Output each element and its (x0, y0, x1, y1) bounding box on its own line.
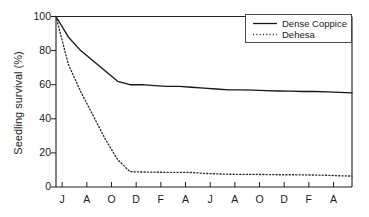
chart-figure: Seedling survival (%) 100 80 60 40 20 0 … (0, 0, 369, 217)
x-axis-ticks (62, 182, 333, 187)
x-tick-label-7: A (231, 193, 238, 205)
x-tick-label-4: F (158, 193, 164, 205)
x-tick-label-11: A (330, 193, 337, 205)
y-tick-label-80: 80 (39, 44, 51, 56)
x-tick-label-2: O (107, 193, 115, 205)
y-tick-label-40: 40 (39, 112, 51, 124)
y-tick-label-0: 0 (45, 180, 51, 192)
legend-label-dehesa: Dehesa (282, 29, 315, 40)
x-tick-label-1: A (83, 193, 90, 205)
seedling-survival-line-chart: Seedling survival (%) 100 80 60 40 20 0 … (0, 0, 369, 217)
y-axis-title: Seedling survival (%) (12, 51, 24, 154)
x-tick-label-3: D (132, 193, 140, 205)
y-axis-tick-labels: 100 80 60 40 20 0 (33, 10, 51, 192)
y-tick-label-60: 60 (39, 78, 51, 90)
x-tick-label-9: D (280, 193, 288, 205)
y-axis-ticks (51, 17, 56, 188)
x-tick-label-6: J (208, 193, 213, 205)
y-tick-label-20: 20 (39, 146, 51, 158)
x-axis-tick-labels: JAODFAJAODFA (60, 193, 337, 205)
legend: Dense Coppice Dehesa (246, 15, 352, 43)
legend-label-dense-coppice: Dense Coppice (282, 18, 347, 29)
x-tick-label-8: O (255, 193, 263, 205)
y-tick-label-100: 100 (33, 10, 51, 22)
x-tick-label-5: A (182, 193, 189, 205)
y-axis-title-text: Seedling survival (%) (12, 51, 24, 154)
x-tick-label-10: F (306, 193, 312, 205)
x-tick-label-0: J (60, 193, 65, 205)
